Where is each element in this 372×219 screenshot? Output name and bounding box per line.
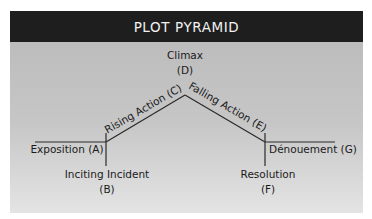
climax-letter: (D): [177, 64, 193, 76]
rising-action-label: Rising Action (C): [102, 82, 183, 136]
resolution-letter: (F): [261, 183, 275, 195]
inciting-incident-letter: (B): [99, 183, 114, 195]
denouement-label: Dénouement (G): [269, 143, 357, 155]
inciting-incident-label: Inciting Incident: [65, 168, 149, 180]
exposition-label: Exposition (A): [30, 143, 103, 155]
plot-pyramid-diagram: Climax (D) Rising Action (C) Falling Act…: [0, 0, 372, 219]
climax-label: Climax: [167, 49, 203, 61]
resolution-label: Resolution: [241, 168, 296, 180]
falling-action-label: Falling Action (E): [187, 79, 269, 133]
